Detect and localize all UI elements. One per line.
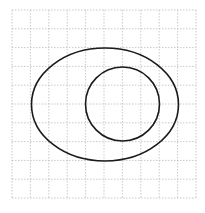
dotted-grid bbox=[12, 10, 196, 198]
outer-ellipse bbox=[32, 48, 179, 161]
grid-diagram bbox=[0, 0, 205, 213]
